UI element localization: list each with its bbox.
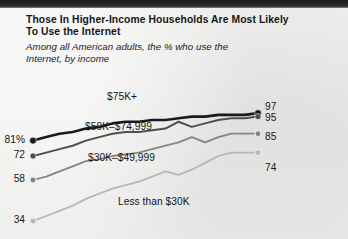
end-dot-2 [255,131,261,137]
start-dot-3 [30,218,36,224]
start-label-50k: 72 [0,149,25,160]
start-dot-2 [30,177,36,183]
end-label-under30k: 74 [265,162,276,173]
end-label-75k: 97 [265,101,276,112]
end-dot-3 [255,150,261,156]
end-label-30k: 85 [265,131,276,142]
start-label-75k: 81% [0,134,25,145]
series-label-50k: $50K–$74,999 [85,121,152,132]
start-dot-0 [30,137,37,144]
end-dot-1 [255,114,261,120]
series-label-75k: $75K+ [107,91,137,102]
series-label-30k: $30K–$49,999 [88,152,155,163]
end-label-50k: 95 [265,112,276,123]
start-label-30k: 58 [0,173,25,184]
start-label-under30k: 34 [0,214,25,225]
series-label-under30k: Less than $30K [118,196,190,207]
start-dot-1 [30,153,36,159]
